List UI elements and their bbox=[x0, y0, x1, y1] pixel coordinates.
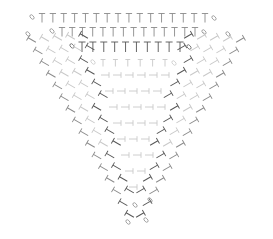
dc-stitch-icon bbox=[92, 127, 103, 137]
dc-stitch-icon bbox=[92, 152, 103, 162]
dc-stitch-icon bbox=[61, 14, 67, 23]
dc-stitch-icon bbox=[71, 14, 77, 23]
dc-stitch-icon bbox=[148, 187, 159, 197]
dc-stitch-icon bbox=[133, 104, 141, 110]
dc-stitch-icon bbox=[50, 14, 56, 23]
dc-stitch-icon bbox=[53, 82, 64, 92]
chain-stitch-icon bbox=[49, 28, 55, 34]
dc-stitch-icon bbox=[79, 31, 90, 41]
dc-stitch-icon bbox=[121, 104, 129, 110]
chain-stitch-icon bbox=[211, 15, 217, 21]
dc-stitch-icon bbox=[155, 126, 166, 136]
dc-stitch-icon bbox=[40, 34, 51, 44]
dc-stitch-icon bbox=[105, 151, 116, 161]
dc-stitch-icon bbox=[33, 47, 44, 57]
dc-stitch-icon bbox=[113, 72, 121, 78]
dc-stitch-icon bbox=[208, 57, 219, 67]
dc-stitch-icon bbox=[176, 43, 187, 53]
dc-stitch-icon bbox=[46, 70, 57, 80]
chain-stitch-icon bbox=[171, 60, 177, 66]
dc-stitch-icon bbox=[195, 105, 206, 115]
dc-stitch-icon bbox=[149, 72, 157, 78]
dc-stitch-icon bbox=[118, 174, 129, 184]
dc-stitch-icon bbox=[113, 120, 121, 126]
dc-stitch-icon bbox=[148, 14, 154, 23]
dc-stitch-icon bbox=[72, 92, 83, 102]
dc-stitch-icon bbox=[221, 58, 232, 68]
dc-stitch-icon bbox=[53, 57, 64, 67]
dc-stitch-icon bbox=[111, 187, 122, 197]
dc-stitch-icon bbox=[130, 28, 136, 37]
dc-stitch-icon bbox=[180, 14, 186, 23]
dc-stitch-icon bbox=[104, 14, 110, 23]
dc-stitch-icon bbox=[66, 32, 77, 42]
dc-stitch-icon bbox=[40, 58, 51, 68]
dc-stitch-icon bbox=[129, 88, 137, 94]
dc-stitch-icon bbox=[151, 28, 157, 37]
dc-stitch-icon bbox=[137, 168, 145, 174]
dc-stitch-icon bbox=[189, 44, 200, 54]
dc-stitch-icon bbox=[117, 88, 125, 94]
dc-stitch-icon bbox=[202, 45, 213, 55]
dc-stitch-icon bbox=[158, 14, 164, 23]
dc-stitch-icon bbox=[105, 126, 116, 136]
dc-stitch-icon bbox=[79, 55, 90, 65]
dc-stitch-icon bbox=[191, 14, 197, 23]
dc-stitch-icon bbox=[175, 91, 186, 101]
dc-stitch-icon bbox=[79, 42, 86, 52]
dc-stitch-icon bbox=[141, 136, 149, 142]
dc-stitch-icon bbox=[133, 152, 141, 158]
dc-stitch-icon bbox=[155, 175, 166, 185]
dc-stitch-icon bbox=[208, 82, 219, 92]
dc-stitch-icon bbox=[138, 60, 143, 67]
dc-stitch-icon bbox=[98, 139, 109, 149]
dc-stitch-icon bbox=[162, 90, 173, 100]
dc-stitch-icon bbox=[148, 162, 159, 172]
dc-stitch-icon bbox=[169, 14, 175, 23]
dc-stitch-icon bbox=[175, 116, 186, 126]
dc-stitch-icon bbox=[215, 70, 226, 80]
dc-stitch-icon bbox=[168, 127, 179, 137]
dc-stitch-icon bbox=[85, 116, 96, 126]
dc-stitch-icon bbox=[125, 210, 136, 220]
dc-stitch-icon bbox=[141, 198, 152, 208]
dc-stitch-icon bbox=[215, 46, 226, 56]
dc-stitch-icon bbox=[195, 81, 206, 91]
dc-stitch-icon bbox=[149, 120, 157, 126]
chain-stitch-icon bbox=[225, 31, 231, 37]
crochet-chart bbox=[0, 0, 273, 239]
dc-stitch-icon bbox=[181, 128, 192, 138]
dc-stitch-icon bbox=[122, 42, 129, 52]
dc-stitch-icon bbox=[66, 105, 77, 115]
dc-stitch-icon bbox=[90, 28, 96, 37]
dc-stitch-icon bbox=[202, 69, 213, 79]
dc-stitch-icon bbox=[162, 115, 173, 125]
chain-stitch-icon bbox=[90, 59, 96, 65]
dc-stitch-icon bbox=[39, 14, 45, 23]
dc-stitch-icon bbox=[98, 115, 109, 125]
dc-stitch-icon bbox=[101, 60, 106, 67]
dc-stitch-icon bbox=[168, 152, 179, 162]
dc-stitch-icon bbox=[149, 138, 160, 148]
dc-stitch-icon bbox=[235, 35, 246, 45]
dc-stitch-icon bbox=[92, 79, 103, 89]
dc-stitch-icon bbox=[69, 28, 75, 37]
dc-stitch-icon bbox=[125, 168, 133, 174]
dc-stitch-icon bbox=[150, 60, 155, 67]
dc-stitch-icon bbox=[129, 136, 137, 142]
dc-stitch-icon bbox=[182, 80, 193, 90]
dc-stitch-icon bbox=[110, 28, 116, 37]
dc-stitch-icon bbox=[188, 92, 199, 102]
dc-stitch-icon bbox=[196, 32, 207, 42]
dc-stitch-icon bbox=[85, 67, 96, 77]
dc-stitch-icon bbox=[141, 88, 149, 94]
dc-stitch-icon bbox=[100, 42, 107, 52]
dc-stitch-icon bbox=[93, 14, 99, 23]
dc-stitch-icon bbox=[79, 104, 90, 114]
dc-stitch-icon bbox=[155, 42, 162, 52]
chain-stitch-icon bbox=[25, 31, 31, 37]
dc-stitch-icon bbox=[113, 60, 118, 67]
dc-stitch-icon bbox=[201, 93, 212, 103]
chain-stitch-icon bbox=[143, 217, 149, 223]
dc-stitch-icon bbox=[189, 68, 200, 78]
